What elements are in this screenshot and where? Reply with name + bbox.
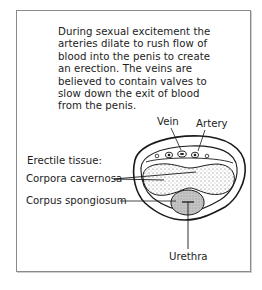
label-erectile-tissue: Erectile tissue: [27,155,102,166]
label-vein: Vein [157,116,179,127]
dorsal-vessels [155,151,209,158]
vessel-small-left [155,154,159,158]
vessel-small-right [205,154,209,158]
label-artery: Artery [196,118,228,129]
artery-leader [198,130,205,151]
penis-cross-section-diagram [0,0,262,290]
label-urethra: Urethra [169,251,208,262]
tunica-line [146,158,233,163]
label-corpora-cavernosa: Corpora cavernosa [26,173,122,184]
label-corpus-spongiosum: Corpus spongiosum [26,195,127,206]
